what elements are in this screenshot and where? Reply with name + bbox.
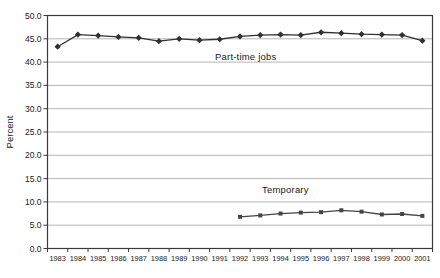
diamond-marker — [55, 44, 61, 50]
x-tick-label: 2001 — [414, 254, 430, 263]
diamond-marker — [379, 32, 385, 38]
y-tick-label: 15.0 — [25, 174, 42, 184]
square-marker — [238, 215, 242, 219]
x-tick-label: 1991 — [212, 254, 228, 263]
x-tick-label: 1999 — [374, 254, 390, 263]
x-tick-label: 1994 — [272, 254, 288, 263]
x-tick-label: 1995 — [293, 254, 309, 263]
square-marker — [319, 210, 323, 214]
y-axis: 0.05.010.015.020.025.030.035.040.045.050… — [25, 11, 48, 254]
diamond-marker — [217, 36, 223, 42]
y-tick-label: 10.0 — [25, 197, 42, 207]
y-tick-label: 25.0 — [25, 127, 42, 137]
y-axis-title: Percent — [4, 115, 15, 148]
square-marker — [258, 213, 262, 217]
series-line-temporary — [240, 210, 422, 217]
diamond-marker — [95, 32, 101, 38]
x-axis: 1983198419851986198719881989199019911992… — [48, 249, 433, 263]
square-marker — [420, 214, 424, 218]
diamond-marker — [358, 31, 364, 37]
diamond-marker — [176, 36, 182, 42]
y-tick-label: 45.0 — [25, 34, 42, 44]
diamond-marker — [298, 32, 304, 38]
series-label-temporary: Temporary — [262, 184, 309, 195]
square-marker — [400, 212, 404, 216]
square-marker — [380, 212, 384, 216]
y-tick-label: 0.0 — [30, 244, 42, 254]
x-tick-label: 1989 — [171, 254, 187, 263]
square-marker — [299, 211, 303, 215]
series-part-time-jobs — [55, 29, 426, 50]
x-tick-label: 1993 — [252, 254, 268, 263]
diamond-marker — [338, 30, 344, 36]
diamond-marker — [136, 35, 142, 41]
x-tick-label: 1983 — [49, 254, 65, 263]
square-marker — [360, 210, 364, 214]
x-tick-label: 1990 — [191, 254, 207, 263]
x-tick-label: 1992 — [232, 254, 248, 263]
gridlines — [48, 39, 433, 225]
diamond-marker — [196, 37, 202, 43]
square-marker — [339, 208, 343, 212]
y-tick-label: 30.0 — [25, 104, 42, 114]
x-tick-label: 1996 — [313, 254, 329, 263]
x-tick-label: 1997 — [333, 254, 349, 263]
diamond-marker — [277, 32, 283, 38]
diamond-marker — [399, 32, 405, 38]
x-tick-label: 1984 — [70, 254, 86, 263]
x-tick-label: 2000 — [394, 254, 410, 263]
x-tick-label: 1985 — [90, 254, 106, 263]
square-marker — [279, 212, 283, 216]
diamond-marker — [318, 29, 324, 35]
x-tick-label: 1986 — [110, 254, 126, 263]
y-tick-label: 35.0 — [25, 80, 42, 90]
y-tick-label: 40.0 — [25, 57, 42, 67]
x-tick-label: 1987 — [130, 254, 146, 263]
y-tick-label: 5.0 — [30, 220, 42, 230]
x-tick-label: 1988 — [151, 254, 167, 263]
series-temporary — [238, 208, 424, 219]
y-tick-label: 20.0 — [25, 150, 42, 160]
x-tick-label: 1998 — [353, 254, 369, 263]
y-tick-label: 50.0 — [25, 11, 42, 21]
diamond-marker — [257, 32, 263, 38]
series-label-part-time-jobs: Part-time jobs — [215, 51, 276, 62]
chart-canvas: 0.05.010.015.020.025.030.035.040.045.050… — [0, 0, 440, 278]
line-chart: 0.05.010.015.020.025.030.035.040.045.050… — [0, 0, 440, 278]
diamond-marker — [75, 32, 81, 38]
